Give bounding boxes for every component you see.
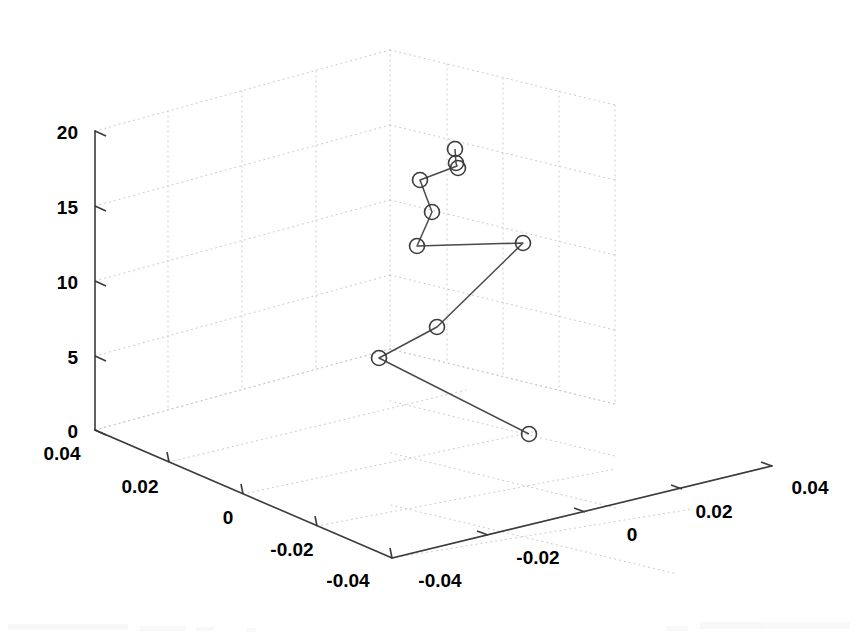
z-tick-label: 15 bbox=[57, 197, 79, 218]
grid-floor-left-parallel bbox=[390, 349, 772, 574]
y-tick-labels: 0.04 0.02 0 -0.02 -0.04 bbox=[44, 443, 371, 591]
grid-group bbox=[95, 50, 772, 574]
x-tick-label: 0.02 bbox=[696, 501, 733, 522]
x-axis-ticks bbox=[477, 462, 772, 535]
z-tick-label: 0 bbox=[67, 421, 78, 442]
x-tick-label: -0.02 bbox=[516, 547, 559, 568]
figure-canvas: 20 15 10 5 0 0.04 0.02 0 -0.02 -0.04 -0.… bbox=[0, 0, 865, 634]
z-tick-labels: 20 15 10 5 0 bbox=[57, 122, 79, 442]
x-tick-labels: -0.04 -0.02 0 0.02 0.04 bbox=[418, 477, 829, 591]
y-tick-label: 0 bbox=[223, 507, 234, 528]
y-tick-label: -0.02 bbox=[270, 539, 313, 560]
scan-artifacts bbox=[8, 622, 850, 632]
y-tick-label: 0.04 bbox=[44, 443, 81, 464]
z-tick-label: 5 bbox=[67, 347, 78, 368]
y-tick-label: -0.04 bbox=[326, 570, 370, 591]
data-polyline bbox=[379, 149, 529, 434]
data-series bbox=[372, 142, 537, 442]
z-tick-label: 10 bbox=[57, 272, 78, 293]
axes-group bbox=[95, 131, 772, 558]
y-tick-label: 0.02 bbox=[122, 476, 159, 497]
z-axis-ticks bbox=[95, 131, 106, 435]
x-tick-label: -0.04 bbox=[418, 570, 462, 591]
z-tick-label: 20 bbox=[57, 122, 78, 143]
x-tick-label: 0.04 bbox=[792, 477, 829, 498]
x-tick-label: 0 bbox=[627, 524, 638, 545]
plot-svg: 20 15 10 5 0 0.04 0.02 0 -0.02 -0.04 -0.… bbox=[0, 0, 865, 634]
grid-floor-right-parallel bbox=[95, 349, 692, 558]
